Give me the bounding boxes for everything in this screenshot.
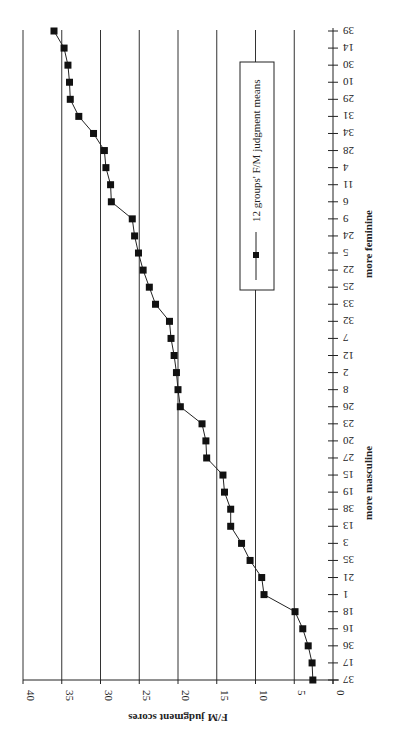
value-tick-label: 40 — [25, 690, 37, 702]
value-tick-label: 15 — [219, 690, 231, 702]
data-point — [305, 642, 312, 649]
category-ticks: 3717361618121353133819152720232682127323… — [328, 25, 354, 686]
category-tick-label: 37 — [343, 674, 355, 686]
category-tick-label: 34 — [343, 127, 355, 139]
legend-marker-swatch — [253, 252, 259, 258]
category-tick-label: 28 — [343, 145, 355, 157]
chart: 3717361618121353133819152720232682127323… — [0, 0, 393, 738]
category-tick-label: 38 — [343, 503, 355, 515]
data-point — [152, 301, 159, 308]
category-tick-label: 9 — [343, 213, 349, 225]
category-tick-label: 30 — [343, 59, 355, 71]
category-tick-label: 24 — [343, 230, 355, 242]
category-tick-label: 32 — [343, 315, 354, 327]
category-tick-label: 29 — [343, 93, 355, 105]
data-point — [64, 62, 71, 69]
data-point — [135, 250, 142, 257]
data-point — [129, 215, 136, 222]
annotation-more-masculine: more masculine — [362, 446, 374, 520]
category-tick-label: 16 — [343, 623, 355, 635]
data-point — [102, 164, 109, 171]
data-point — [309, 659, 316, 666]
value-tick-label: 20 — [180, 690, 192, 702]
category-tick-label: 21 — [343, 572, 354, 584]
data-point — [203, 454, 210, 461]
data-point — [90, 130, 97, 137]
category-tick-label: 8 — [343, 384, 349, 396]
category-tick-label: 19 — [343, 486, 355, 498]
category-tick-label: 4 — [343, 162, 349, 174]
data-point — [199, 420, 206, 427]
data-point — [221, 489, 228, 496]
value-tick-label: 10 — [258, 690, 270, 702]
data-point — [171, 352, 178, 359]
data-point — [131, 232, 138, 239]
legend: 12 groups' F/M judgment means — [240, 62, 274, 290]
data-point — [61, 45, 68, 52]
category-tick-label: 20 — [343, 435, 355, 447]
category-tick-label: 13 — [343, 520, 355, 532]
data-point — [173, 369, 180, 376]
data-point — [202, 437, 209, 444]
category-tick-label: 7 — [343, 332, 349, 344]
data-point — [258, 574, 265, 581]
category-tick-label: 36 — [343, 640, 355, 652]
data-point — [292, 608, 299, 615]
category-tick-label: 15 — [343, 469, 355, 481]
value-tick-label: 30 — [103, 690, 115, 702]
data-point — [261, 591, 268, 598]
annotation-more-feminine: more feminine — [362, 210, 374, 278]
data-point — [67, 96, 74, 103]
category-tick-label: 27 — [343, 452, 355, 464]
value-tick-label: 25 — [141, 690, 153, 702]
category-tick-label: 35 — [343, 554, 355, 566]
axes — [23, 28, 339, 684]
data-point — [108, 198, 115, 205]
value-tick-label: 5 — [296, 690, 308, 696]
value-tick-label: 0 — [335, 690, 347, 696]
data-point — [51, 28, 58, 35]
category-tick-label: 14 — [343, 42, 355, 54]
category-tick-label: 33 — [343, 298, 355, 310]
category-tick-label: 31 — [343, 110, 354, 122]
data-point — [309, 677, 316, 684]
data-point — [101, 147, 108, 154]
category-tick-label: 2 — [343, 367, 349, 379]
data-point — [107, 181, 114, 188]
data-point — [227, 523, 234, 530]
series — [51, 28, 317, 684]
value-ticks: 0510152025303540 — [23, 680, 347, 702]
category-tick-label: 1 — [343, 589, 349, 601]
category-tick-label: 39 — [343, 25, 355, 37]
category-tick-label: 11 — [343, 179, 354, 191]
value-axis-title: F/M judgment scores — [128, 712, 228, 724]
category-tick-label: 26 — [343, 401, 355, 413]
data-point — [177, 403, 184, 410]
data-point — [247, 557, 254, 564]
data-point — [175, 386, 182, 393]
category-tick-label: 10 — [343, 76, 355, 88]
category-tick-label: 3 — [343, 537, 349, 549]
data-point — [299, 625, 306, 632]
legend-label: 12 groups' F/M judgment means — [250, 79, 262, 222]
category-tick-label: 6 — [343, 196, 349, 208]
category-tick-label: 25 — [343, 281, 355, 293]
category-tick-label: 12 — [343, 350, 354, 362]
data-point — [140, 267, 147, 274]
category-tick-label: 22 — [343, 264, 354, 276]
category-tick-label: 5 — [343, 247, 349, 259]
category-tick-label: 18 — [343, 606, 355, 618]
data-point — [168, 335, 175, 342]
data-point — [146, 284, 153, 291]
data-point — [227, 506, 234, 513]
data-point — [75, 113, 82, 120]
data-point — [219, 472, 226, 479]
data-point — [238, 540, 245, 547]
data-point — [66, 79, 73, 86]
data-point — [166, 318, 173, 325]
category-tick-label: 17 — [343, 657, 355, 669]
value-tick-label: 35 — [64, 690, 76, 702]
category-tick-label: 23 — [343, 418, 355, 430]
